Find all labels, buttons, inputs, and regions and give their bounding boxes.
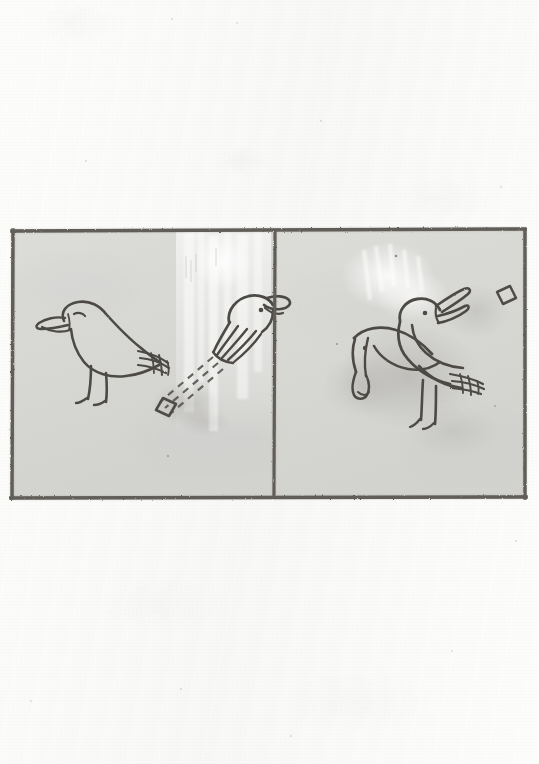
paper-speck bbox=[30, 700, 32, 702]
ink-speck bbox=[336, 343, 338, 345]
ink-smudge bbox=[178, 407, 230, 437]
ink-speck bbox=[494, 405, 496, 407]
paper-speck bbox=[180, 688, 182, 690]
two-panel-bird-scene bbox=[8, 226, 529, 503]
manuscript-page bbox=[0, 0, 539, 764]
paper-speck bbox=[236, 22, 238, 24]
illustration-band bbox=[8, 226, 529, 503]
paper-speck bbox=[451, 650, 453, 652]
paper-speck bbox=[500, 186, 502, 188]
ink-speck bbox=[167, 455, 169, 457]
paper-speck bbox=[171, 18, 173, 20]
paper-speck bbox=[85, 160, 87, 162]
paper-speck bbox=[515, 540, 517, 542]
paper-speck bbox=[290, 735, 292, 737]
paper-speck bbox=[320, 120, 322, 122]
ink-speck bbox=[395, 255, 398, 258]
